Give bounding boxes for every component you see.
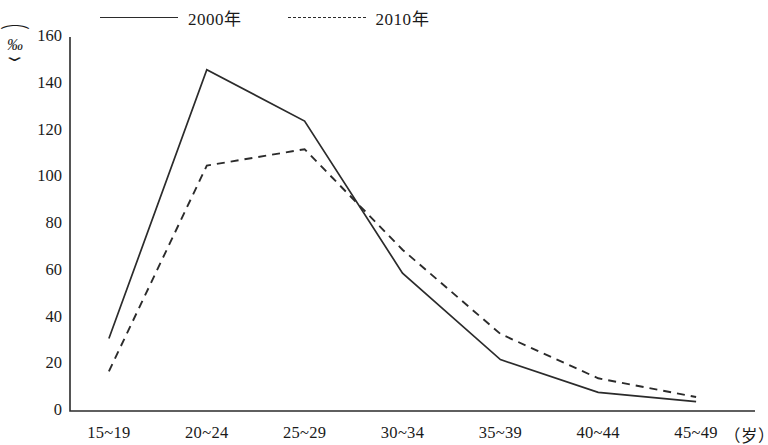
x-axis-unit: （岁）	[724, 423, 768, 445]
x-tick-label: 35~39	[455, 423, 545, 443]
x-tick-label: 15~19	[64, 423, 154, 443]
axis-lines	[70, 37, 755, 411]
x-tick-label: 30~34	[358, 423, 448, 443]
x-tick-label: 25~29	[260, 423, 350, 443]
y-tick-label: 40	[18, 307, 62, 327]
axis-group	[70, 37, 755, 411]
y-tick-label: 60	[18, 260, 62, 280]
y-tick-label: 80	[18, 213, 62, 233]
y-tick-label: 160	[18, 26, 62, 46]
y-tick-label: 140	[18, 73, 62, 93]
y-tick-label: 100	[18, 166, 62, 186]
x-tick-label: 20~24	[162, 423, 252, 443]
y-tick-label: 120	[18, 120, 62, 140]
y-tick-label: 20	[18, 353, 62, 373]
series-line-2000	[109, 70, 696, 402]
x-tick-label: 40~44	[553, 423, 643, 443]
y-tick-label: 0	[18, 400, 62, 420]
series-group	[109, 70, 696, 402]
